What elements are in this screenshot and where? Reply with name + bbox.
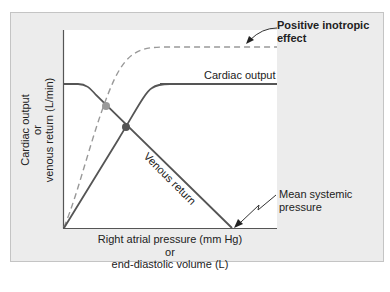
cardiac-output-curve — [64, 84, 277, 228]
y-axis-label-line1: Cardiac output — [19, 60, 31, 200]
positive-inotropic-label-line1: Positive inotropic — [277, 19, 369, 32]
equilibrium-dot — [122, 123, 130, 131]
x-axis-label: Right atrial pressure (mm Hg) or end-dia… — [63, 233, 277, 271]
positive-inotropic-label: Positive inotropic effect — [277, 19, 369, 45]
mean-systemic-arrowhead — [234, 219, 243, 228]
inotropic-equilibrium-dot — [102, 102, 110, 110]
x-axis-label-line3: end-diastolic volume (L) — [63, 258, 277, 271]
mean-systemic-pressure-label: Mean systemic pressure — [279, 188, 352, 214]
cardiac-output-label: Cardiac output — [204, 69, 276, 82]
positive-inotropic-label-line2: effect — [277, 32, 369, 45]
y-axis-label-line3: venous return (L/min) — [43, 60, 55, 200]
y-axis-label: Cardiac output or venous return (L/min) — [19, 60, 55, 200]
inotropic-arrow-curve — [240, 28, 250, 30]
mean-systemic-pointer — [241, 195, 276, 222]
inotropic-arrow-line — [242, 27, 250, 29]
y-axis-label-line2: or — [31, 60, 43, 200]
x-axis-label-line2: or — [63, 246, 277, 259]
mean-systemic-label-line1: Mean systemic — [279, 188, 352, 201]
mean-systemic-label-line2: pressure — [279, 201, 352, 214]
x-axis-label-line1: Right atrial pressure (mm Hg) — [63, 233, 277, 246]
inotropic-pointer — [250, 28, 277, 40]
